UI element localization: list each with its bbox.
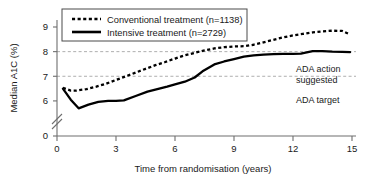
legend: Conventional treatment (n=1138) Intensiv… — [62, 9, 247, 41]
ada-action-suggested-label-line2: suggested — [296, 75, 338, 85]
annotations-group: ADA action suggested ADA target — [296, 64, 341, 105]
y-tick-label-6: 6 — [43, 95, 48, 106]
x-tick-label-0: 0 — [54, 143, 59, 154]
legend-label-conventional: Conventional treatment (n=1138) — [107, 15, 243, 25]
y-tick-label-8: 8 — [43, 46, 48, 57]
ada-target-label: ADA target — [296, 95, 340, 105]
y-axis-ticks: 06789 — [43, 21, 57, 141]
x-tick-label-6: 6 — [172, 143, 177, 154]
median-a1c-line-chart: 06789 03691215 Time from randomisation (… — [0, 0, 373, 183]
y-tick-label-0: 0 — [43, 130, 48, 141]
x-tick-label-3: 3 — [113, 143, 118, 154]
x-axis-ticks: 03691215 — [54, 136, 357, 154]
chart-svg: 06789 03691215 Time from randomisation (… — [0, 0, 373, 183]
x-tick-label-9: 9 — [231, 143, 236, 154]
y-axis-title: Median A1C (%) — [8, 43, 19, 112]
x-axis-title: Time from randomisation (years) — [135, 163, 272, 174]
y-tick-label-7: 7 — [43, 71, 48, 82]
legend-label-intensive: Intensive treatment (n=2729) — [107, 28, 226, 38]
y-tick-label-9: 9 — [43, 21, 48, 32]
ada-action-suggested-label-line1: ADA action — [296, 64, 341, 74]
x-tick-label-12: 12 — [288, 143, 299, 154]
x-tick-label-15: 15 — [347, 143, 358, 154]
